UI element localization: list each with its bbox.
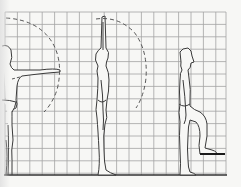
- grid: [5, 12, 226, 175]
- figure-arm-extended: [2, 46, 60, 176]
- page-edge-shadow: [0, 0, 10, 187]
- anthropometric-diagram: [0, 0, 241, 187]
- figure-overhead-reach: [95, 16, 116, 175]
- diagram-canvas: [0, 0, 241, 187]
